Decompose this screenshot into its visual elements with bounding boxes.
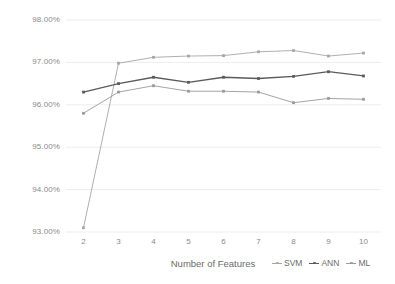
- x-axis-tick-label: 6: [213, 237, 235, 246]
- data-point: [257, 77, 260, 80]
- data-point: [187, 90, 190, 93]
- x-axis-tick-label: 10: [353, 237, 375, 246]
- legend-item-svm[interactable]: SVM: [272, 258, 302, 268]
- data-point: [222, 90, 225, 93]
- data-point: [117, 91, 120, 94]
- data-point: [187, 55, 190, 58]
- x-axis-tick-label: 7: [248, 237, 270, 246]
- data-point: [222, 76, 225, 79]
- x-axis-tick-label: 3: [108, 237, 130, 246]
- legend-marker-icon: [272, 260, 282, 267]
- gridlines: [66, 20, 381, 232]
- data-point: [362, 98, 365, 101]
- data-point: [362, 52, 365, 55]
- data-point: [257, 50, 260, 53]
- series-layer: [82, 49, 365, 229]
- data-point: [82, 226, 85, 229]
- legend-marker-icon: [346, 260, 356, 267]
- data-point: [152, 84, 155, 87]
- x-axis-tick-label: 2: [73, 237, 95, 246]
- series-line-ann: [84, 72, 364, 92]
- data-point: [117, 62, 120, 65]
- x-axis-tick-label: 4: [143, 237, 165, 246]
- chart-legend: SVMANNML: [272, 258, 370, 268]
- x-axis-title: Number of Features: [148, 258, 278, 269]
- data-point: [152, 56, 155, 59]
- data-point: [292, 101, 295, 104]
- data-point: [362, 75, 365, 78]
- data-point: [187, 81, 190, 84]
- data-point: [82, 112, 85, 115]
- line-chart: 98.00%97.00%96.00%95.00%94.00%93.00% 234…: [0, 0, 395, 284]
- data-point: [327, 70, 330, 73]
- data-point: [327, 97, 330, 100]
- x-axis-tick-label: 9: [318, 237, 340, 246]
- x-axis-tick-label: 5: [178, 237, 200, 246]
- data-point: [327, 55, 330, 58]
- legend-item-ann[interactable]: ANN: [309, 258, 339, 268]
- legend-label: ML: [358, 258, 370, 268]
- data-point: [152, 76, 155, 79]
- legend-marker-icon: [309, 260, 319, 267]
- legend-item-ml[interactable]: ML: [346, 258, 370, 268]
- data-point: [82, 91, 85, 94]
- data-point: [222, 54, 225, 57]
- data-point: [257, 91, 260, 94]
- legend-label: SVM: [284, 258, 302, 268]
- data-point: [292, 75, 295, 78]
- data-point: [292, 49, 295, 52]
- x-axis-tick-label: 8: [283, 237, 305, 246]
- data-point: [117, 82, 120, 85]
- legend-label: ANN: [321, 258, 339, 268]
